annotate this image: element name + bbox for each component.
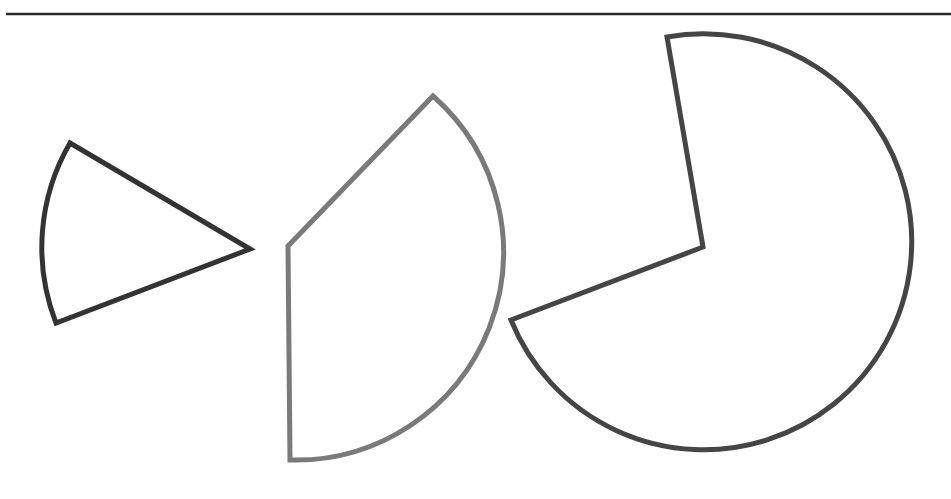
sector-large-shape xyxy=(511,34,912,450)
sector-small-shape xyxy=(42,143,250,323)
sector-medium-shape xyxy=(288,96,504,460)
diagram-canvas xyxy=(0,0,951,499)
